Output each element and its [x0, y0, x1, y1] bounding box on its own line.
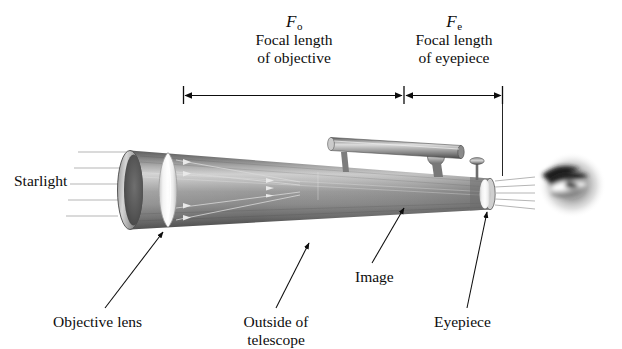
eyepiece-focal-line1: Focal length [404, 31, 504, 49]
leader-objective-lens [105, 232, 163, 308]
dimension-line-group [184, 86, 503, 104]
objective-focal-line1: Focal length [185, 31, 403, 49]
eyepiece-lens [480, 180, 491, 209]
label-eyepiece: Eyepiece [434, 313, 491, 331]
finder-eyepiece-end [458, 145, 464, 158]
label-objective-lens: Objective lens [53, 313, 142, 331]
objective-focal-line2: of objective [185, 49, 403, 67]
focus-knob [470, 158, 484, 180]
observer-eye [538, 152, 606, 218]
symbol-f-eyepiece: Fe [404, 12, 504, 31]
eyepiece-focal-line2: of eyepiece [404, 49, 504, 67]
finder-scope [328, 137, 465, 177]
exit-rays [495, 177, 535, 209]
label-image: Image [355, 268, 394, 286]
symbol-f-eyepiece-subscript: e [457, 20, 462, 32]
dimension-label-eyepiece: Fe Focal length of eyepiece [404, 12, 504, 67]
outside-line2: telescope [228, 331, 324, 349]
finder-objective-end [328, 137, 335, 150]
tube-bore [124, 155, 143, 226]
label-starlight: Starlight [14, 172, 67, 190]
label-outside-of-telescope: Outside of telescope [228, 313, 324, 348]
leader-image [372, 208, 404, 263]
dimension-label-objective: Fo Focal length of objective [185, 12, 403, 67]
telescope-diagram: Fo Focal length of objective Fe Focal le… [0, 0, 622, 349]
leader-outside-of-telescope [276, 243, 309, 308]
outside-line1: Outside of [228, 313, 324, 331]
symbol-f-objective: Fo [185, 12, 403, 31]
leader-eyepiece [467, 212, 487, 308]
symbol-f-objective-subscript: o [297, 20, 303, 32]
